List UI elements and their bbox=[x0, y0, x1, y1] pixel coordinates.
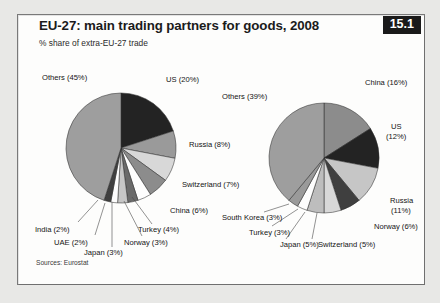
pie-chart-imports bbox=[269, 103, 379, 213]
leader-line bbox=[95, 203, 105, 235]
pie-charts-svg bbox=[0, 0, 440, 303]
leader-lines bbox=[78, 197, 317, 247]
leader-line bbox=[124, 201, 142, 236]
leader-line bbox=[272, 209, 298, 226]
leader-line bbox=[286, 212, 305, 239]
leader-line bbox=[132, 197, 152, 224]
figure-root: EU-27: main trading partners for goods, … bbox=[0, 0, 440, 303]
leader-line bbox=[78, 200, 98, 222]
leader-line bbox=[312, 213, 317, 239]
leader-line bbox=[264, 204, 289, 212]
pie-chart-exports bbox=[66, 93, 176, 203]
